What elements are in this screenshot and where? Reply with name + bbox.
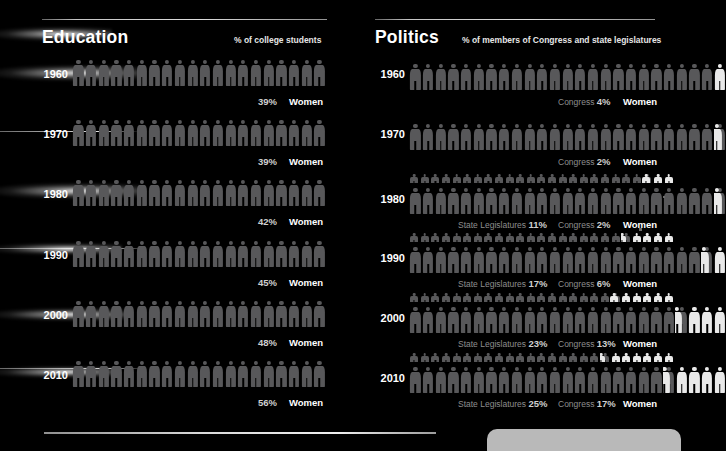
- person-leg-gap: [128, 137, 130, 146]
- pictogram-person: [451, 174, 462, 184]
- pictogram-person: [110, 60, 123, 86]
- person-head: [553, 124, 557, 128]
- person-head: [216, 60, 220, 64]
- pictogram-person: [549, 367, 562, 393]
- person-head: [190, 120, 194, 124]
- person-head: [152, 301, 156, 305]
- person-leg-gap: [255, 197, 257, 206]
- pictogram-person: [675, 124, 688, 150]
- pictogram-person: [472, 124, 485, 150]
- person-head: [203, 180, 207, 184]
- person-leg-gap: [719, 384, 721, 393]
- person-head: [152, 60, 156, 64]
- pictogram-person: [451, 293, 462, 303]
- person-head: [642, 188, 646, 192]
- person-head: [718, 307, 722, 311]
- pictogram-person: [473, 174, 484, 184]
- politics-congress-2010: Congress 17%: [558, 398, 616, 409]
- person-head: [718, 64, 722, 68]
- person-leg-gap: [551, 181, 552, 184]
- person-leg-gap: [706, 384, 708, 393]
- pictogram-row-state-legislatures: [409, 174, 674, 184]
- person-leg-gap: [453, 264, 455, 273]
- person-head: [540, 64, 544, 68]
- person-leg-gap: [78, 258, 80, 267]
- person-head: [566, 188, 570, 192]
- person-head: [413, 64, 417, 68]
- person-leg-gap: [573, 300, 574, 303]
- person-head: [692, 307, 696, 311]
- pictogram-person: [579, 293, 590, 303]
- pictogram-person: [549, 188, 562, 214]
- person-leg-gap: [446, 360, 447, 363]
- person-leg-gap: [562, 360, 563, 363]
- person-leg-gap: [293, 137, 295, 146]
- person-leg-gap: [440, 141, 442, 150]
- pictogram-person-highlighted: [631, 293, 642, 303]
- person-leg-gap: [583, 181, 584, 184]
- person-leg-gap: [78, 197, 80, 206]
- person-leg-gap: [268, 378, 270, 387]
- person-head: [502, 124, 506, 128]
- pictogram-person: [574, 124, 587, 150]
- pictogram-person: [250, 361, 263, 387]
- person-head: [229, 120, 233, 124]
- pictogram-person-highlighted: [714, 307, 726, 333]
- person-leg-gap: [509, 240, 510, 243]
- person-head: [527, 367, 531, 371]
- person-leg-gap: [179, 137, 181, 146]
- pictogram-person: [485, 307, 498, 333]
- person-leg-gap: [580, 81, 582, 90]
- person-leg-gap: [647, 240, 648, 243]
- person-leg-gap: [681, 384, 683, 393]
- person-head: [102, 180, 106, 184]
- person-head: [502, 64, 506, 68]
- person-leg-gap: [467, 300, 468, 303]
- pictogram-person: [483, 233, 494, 243]
- person-head: [102, 120, 106, 124]
- pictogram-person: [199, 301, 212, 327]
- person-leg-gap: [243, 137, 245, 146]
- person-head: [439, 124, 443, 128]
- politics-congress-2000: Congress 13%: [558, 338, 616, 349]
- person-head: [413, 307, 417, 311]
- pictogram-person: [110, 120, 123, 146]
- pictogram-person: [498, 64, 511, 90]
- person-head: [426, 188, 430, 192]
- pictogram-person: [97, 120, 110, 146]
- pictogram-person: [663, 307, 676, 333]
- person-head: [464, 64, 468, 68]
- pictogram-person: [498, 124, 511, 150]
- politics-congress-1960: Congress 4%: [558, 96, 611, 107]
- percent-value: 2%: [597, 156, 611, 167]
- person-head: [76, 120, 80, 124]
- person-leg-gap: [580, 384, 582, 393]
- person-head: [152, 180, 156, 184]
- person-head: [426, 367, 430, 371]
- person-body: [714, 193, 722, 214]
- person-leg-gap: [716, 141, 718, 150]
- person-leg-gap: [573, 360, 574, 363]
- pictogram-row-education: [72, 361, 326, 387]
- person-head: [216, 120, 220, 124]
- person-leg-gap: [78, 137, 80, 146]
- edge-mark: [663, 196, 665, 198]
- pictogram-person: [123, 241, 136, 267]
- person-head: [140, 301, 144, 305]
- pictogram-person: [587, 367, 600, 393]
- person-leg-gap: [630, 324, 632, 333]
- congress-prefix: Congress: [558, 97, 594, 107]
- bottom-tab-bar[interactable]: [487, 429, 681, 451]
- person-leg-gap: [626, 300, 627, 303]
- person-leg-gap: [424, 360, 425, 363]
- person-head: [152, 241, 156, 245]
- pictogram-person: [97, 180, 110, 206]
- person-leg-gap: [656, 81, 658, 90]
- pictogram-person: [72, 361, 85, 387]
- person-leg-gap: [154, 258, 156, 267]
- person-leg-gap: [605, 141, 607, 150]
- person-leg-gap: [477, 240, 478, 243]
- person-leg-gap: [141, 77, 143, 86]
- person-head: [178, 180, 182, 184]
- person-leg-gap: [204, 77, 206, 86]
